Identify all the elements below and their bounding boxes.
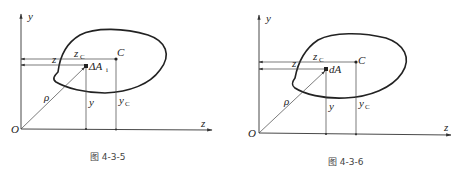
zc-subscript: C: [319, 56, 324, 64]
zc-label: z: [73, 47, 79, 59]
yc-subscript: C: [125, 100, 130, 108]
element-label: dA: [329, 63, 342, 75]
area-element-marker: [84, 64, 88, 68]
zc-subscript: C: [80, 53, 85, 61]
figures-canvas: y z O C ΔA i z C z y y C ρ 图 4-3-5: [0, 0, 451, 173]
rho-label: ρ: [283, 95, 289, 107]
z-axis-label: z: [200, 117, 206, 129]
y-label: y: [88, 96, 94, 108]
rho-label: ρ: [43, 91, 49, 103]
yc-label: y: [118, 94, 124, 106]
rho-vector: [21, 67, 85, 129]
yc-subscript: C: [365, 103, 370, 111]
y-label: y: [328, 100, 334, 112]
area-element-marker: [324, 67, 328, 71]
z-label: z: [51, 53, 57, 65]
origin-label: O: [11, 123, 19, 135]
zc-label: z: [312, 50, 318, 62]
y-axis-label: y: [27, 10, 33, 22]
yc-label: y: [358, 97, 364, 109]
figure-caption: 图 4-3-6: [328, 157, 364, 167]
element-subscript: i: [106, 66, 108, 74]
centroid-label: C: [358, 54, 366, 66]
cross-section-outline: [54, 29, 166, 93]
figure-4-3-6: y z O C dA z C z y y C ρ 图 4-3-6: [248, 12, 451, 167]
rho-vector: [259, 71, 325, 133]
z-label: z: [291, 57, 297, 69]
z-axis-label: z: [443, 121, 449, 133]
figure-4-3-5: y z O C ΔA i z C z y y C ρ 图 4-3-5: [11, 10, 212, 162]
cross-section-outline: [292, 34, 406, 98]
centroid-label: C: [117, 46, 125, 58]
origin-label: O: [248, 127, 256, 139]
y-axis-label: y: [265, 12, 271, 24]
element-label: ΔA: [88, 60, 102, 72]
figure-caption: 图 4-3-5: [90, 152, 126, 162]
